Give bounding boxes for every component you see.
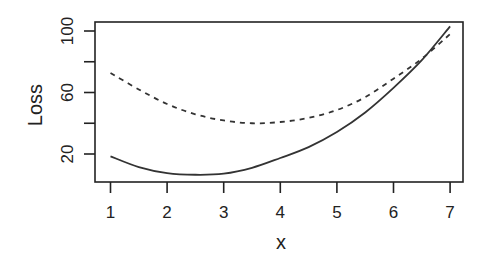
series-layer — [111, 26, 451, 174]
y-axis: 2060100 — [58, 17, 95, 164]
y-axis-title: Loss — [24, 84, 46, 126]
x-axis-title: x — [276, 231, 286, 253]
x-axis: 1234567 — [106, 182, 455, 222]
y-tick-label: 100 — [58, 17, 77, 45]
x-tick-label: 6 — [389, 203, 398, 222]
dashed-line — [111, 34, 451, 123]
x-tick-label: 7 — [445, 203, 454, 222]
y-tick-label: 20 — [58, 145, 77, 164]
x-tick-label: 4 — [276, 203, 285, 222]
loss-chart: 1234567 2060100 x Loss — [0, 0, 483, 260]
solid-line — [111, 26, 451, 174]
x-tick-label: 2 — [162, 203, 171, 222]
y-tick-label: 60 — [58, 83, 77, 102]
x-tick-label: 1 — [106, 203, 115, 222]
x-tick-label: 3 — [219, 203, 228, 222]
x-tick-label: 5 — [332, 203, 341, 222]
